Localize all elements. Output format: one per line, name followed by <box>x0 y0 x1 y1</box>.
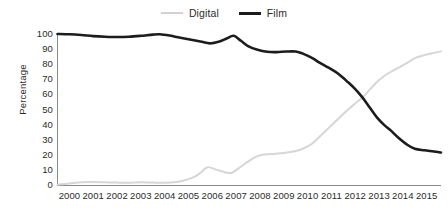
series-line-digital <box>58 51 442 184</box>
axis-lines <box>58 33 442 185</box>
series-line-film <box>58 34 442 153</box>
chart-container: Digital Film Percentage 1009080706050403… <box>0 0 448 215</box>
plot-area <box>0 0 448 215</box>
